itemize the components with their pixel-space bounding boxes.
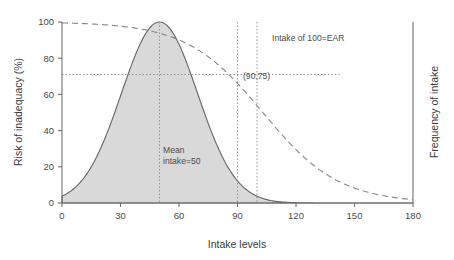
annotation-mean-line-2: intake=50 <box>163 156 201 166</box>
x-axis-title: Intake levels <box>208 238 266 250</box>
x-axis-ticks: 0306090120150180 <box>59 203 421 221</box>
y-tick-label: 100 <box>38 16 54 27</box>
annotation-mean-line-1: Mean <box>163 145 185 155</box>
y-axis-ticks: 020406080100 <box>38 16 62 208</box>
y-tick-label: 0 <box>49 197 54 208</box>
annotation-point-label: (90,75) <box>243 71 270 81</box>
y-axis-title: Risk of inadequacy (%) <box>12 58 24 166</box>
y-tick-label: 40 <box>43 125 54 136</box>
y-tick-label: 20 <box>43 161 54 172</box>
secondary-y-axis-title: Frequency of intake <box>428 66 440 158</box>
x-tick-label: 180 <box>405 210 421 221</box>
x-tick-label: 90 <box>232 210 243 221</box>
x-tick-label: 0 <box>59 210 64 221</box>
annotation-ear-note: Intake of 100=EAR <box>272 33 344 43</box>
chart-figure: 0306090120150180 020406080100 Intake lev… <box>0 0 454 260</box>
x-tick-label: 150 <box>347 210 363 221</box>
x-tick-label: 60 <box>174 210 185 221</box>
y-tick-label: 60 <box>43 89 54 100</box>
risk-of-inadequacy-chart: 0306090120150180 020406080100 Intake lev… <box>0 0 454 260</box>
y-tick-label: 80 <box>43 53 54 64</box>
x-tick-label: 30 <box>115 210 126 221</box>
x-tick-label: 120 <box>288 210 304 221</box>
frequency-of-intake-curve <box>62 22 413 203</box>
